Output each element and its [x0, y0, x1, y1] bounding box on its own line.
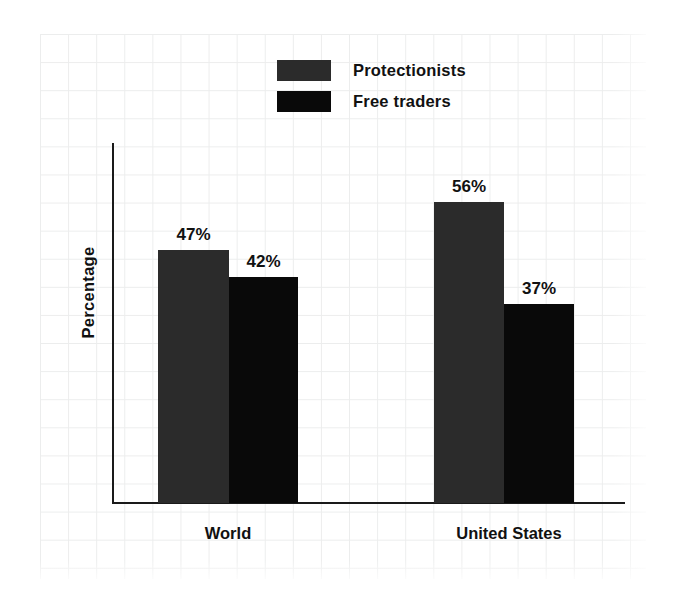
- grid-fade-bottom: [0, 560, 675, 599]
- protectionists-swatch-icon: [277, 60, 331, 81]
- legend-item-free-traders: Free traders: [277, 90, 466, 112]
- y-axis-title: Percentage: [79, 203, 98, 383]
- category-label-world: World: [168, 524, 288, 543]
- chart-legend: Protectionists Free traders: [277, 59, 466, 121]
- y-axis-line: [112, 143, 114, 504]
- bar-value-world-protectionists: 47%: [158, 225, 229, 245]
- legend-label-protectionists: Protectionists: [353, 61, 466, 80]
- bar-world-free-traders: [229, 277, 298, 503]
- bar-value-world-free-traders: 42%: [229, 252, 298, 272]
- bar-world-protectionists: [158, 250, 229, 503]
- grid-fade-right: [612, 34, 675, 579]
- chart-canvas: Protectionists Free traders Percentage 4…: [0, 0, 675, 599]
- legend-item-protectionists: Protectionists: [277, 59, 466, 81]
- bar-us-protectionists: [434, 202, 504, 503]
- legend-label-free-traders: Free traders: [353, 92, 451, 111]
- free-traders-swatch-icon: [277, 91, 331, 112]
- category-label-united-states: United States: [444, 524, 574, 543]
- bar-value-us-free-traders: 37%: [504, 279, 574, 299]
- bar-value-us-protectionists: 56%: [434, 177, 504, 197]
- bar-us-free-traders: [504, 304, 574, 503]
